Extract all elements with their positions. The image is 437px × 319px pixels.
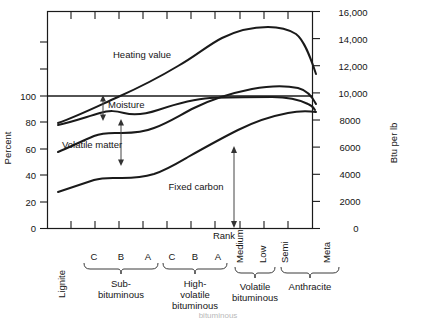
left-axis: 0 20 40 60 80 100 Percent	[2, 42, 48, 234]
rank-group-label-volbit-line2: bituminous	[232, 292, 278, 303]
rank-group-label-hvbit-line2: volatile	[180, 289, 210, 300]
rank-letter-semi: Semi	[279, 241, 290, 263]
rank-letter-hvbit-a: A	[215, 251, 222, 262]
top-axis-ticks	[71, 12, 288, 20]
figure-caption: bituminous	[199, 311, 238, 319]
right-tick-label-2000: 2000	[339, 196, 360, 207]
right-tick-label-14000: 14,000	[338, 34, 367, 45]
right-tick-label-0: 0	[353, 223, 358, 234]
chart-svg: 0 20 40 60 80 100 Percent 0 2000 4000 60…	[0, 0, 437, 319]
annotation-moisture: Moisture	[100, 95, 144, 121]
bottom-axis-ticks	[71, 221, 288, 229]
coal-rank-analysis-figure: 0 20 40 60 80 100 Percent 0 2000 4000 60…	[0, 0, 437, 319]
right-tick-label-10000: 10,000	[338, 88, 367, 99]
rank-group-volatile-bituminous: Medium Low Volatile bituminous	[232, 229, 278, 303]
right-tick-label-16000: 16,000	[338, 7, 367, 18]
rank-group-anthracite: Semi Meta Anthracite	[279, 241, 339, 292]
rank-letter-subbit-b: B	[118, 251, 124, 262]
bottom-axis-title: Rank	[213, 230, 235, 241]
brace-volatile-bituminous	[235, 267, 275, 278]
rank-letter-subbit-c: C	[91, 251, 98, 262]
right-axis-title: Btu per lb	[388, 123, 399, 164]
annotation-label-volatile-matter: Volatile matter	[62, 139, 122, 150]
left-tick-label-0: 0	[31, 223, 36, 234]
rank-letter-subbit-a: A	[145, 251, 152, 262]
rank-group-label-hvbit-line1: High-	[184, 278, 207, 289]
plot-frame	[48, 12, 313, 229]
left-tick-label-20: 20	[25, 197, 36, 208]
right-tick-label-12000: 12,000	[338, 61, 367, 72]
rank-letter-meta: Meta	[321, 241, 332, 263]
right-tick-label-4000: 4000	[339, 169, 360, 180]
rank-group-label-anthracite: Anthracite	[289, 281, 332, 292]
left-tick-label-40: 40	[25, 170, 36, 181]
left-axis-title: Percent	[2, 131, 13, 164]
rank-letter-medium: Medium	[234, 229, 245, 263]
rank-letter-low: Low	[257, 245, 268, 263]
left-axis-ticks	[40, 42, 48, 229]
rank-group-label-hvbit-line3: bituminous	[172, 300, 218, 311]
right-axis-ticks	[313, 12, 321, 229]
brace-anthracite	[281, 267, 339, 278]
left-tick-label-60: 60	[25, 144, 36, 155]
curve-label-heating-value: Heating value	[113, 49, 171, 60]
right-tick-label-6000: 6000	[339, 142, 360, 153]
annotation-volatile-matter: Volatile matter	[62, 119, 124, 166]
curve-heating-value	[58, 27, 316, 123]
right-axis: 0 2000 4000 6000 8000 10,000 12,000 14,0…	[313, 7, 400, 235]
annotation-label-moisture: Moisture	[108, 99, 144, 110]
annotation-label-fixed-carbon: Fixed carbon	[169, 181, 224, 192]
rank-letter-hvbit-b: B	[192, 251, 198, 262]
rank-group-label-volbit-line1: Volatile	[240, 281, 271, 292]
curve-fixed-carbon-lower	[58, 111, 316, 192]
annotation-fixed-carbon: Fixed carbon	[169, 146, 237, 228]
brace-sub-bituminous	[84, 263, 158, 274]
left-tick-label-100: 100	[20, 91, 36, 102]
rank-group-label-subbit-line2: bituminous	[98, 289, 144, 300]
rank-group-label-lignite: Lignite	[56, 270, 67, 298]
left-tick-label-80: 80	[25, 117, 36, 128]
rank-group-sub-bituminous: C B A Sub- bituminous	[84, 251, 158, 300]
brace-high-volatile-bituminous	[163, 263, 227, 274]
rank-group-label-subbit-line1: Sub-	[111, 278, 131, 289]
right-tick-label-8000: 8000	[339, 115, 360, 126]
rank-letter-hvbit-c: C	[169, 251, 176, 262]
rank-group-high-volatile-bituminous: C B A High- volatile bituminous	[163, 251, 227, 311]
